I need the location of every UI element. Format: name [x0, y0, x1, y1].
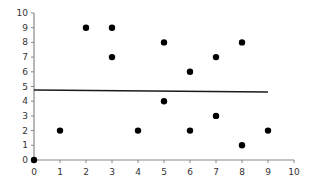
trend-line	[34, 90, 268, 92]
x-tick-label: 5	[161, 167, 167, 177]
x-tick-label: 10	[288, 167, 300, 177]
y-axis-ticks: 012345678910	[17, 8, 34, 165]
y-tick-label: 9	[22, 23, 28, 33]
x-tick-label: 1	[57, 167, 63, 177]
y-tick-label: 2	[22, 126, 28, 136]
y-tick-label: 7	[22, 52, 28, 62]
data-point	[213, 54, 219, 60]
data-point	[109, 25, 115, 31]
x-axis-ticks: 012345678910	[31, 160, 300, 177]
y-tick-label: 8	[22, 37, 28, 47]
data-point	[135, 127, 141, 133]
data-point	[239, 142, 245, 148]
y-tick-label: 1	[22, 140, 28, 150]
y-tick-label: 4	[22, 96, 28, 106]
scatter-chart: 012345678910 012345678910	[0, 0, 313, 190]
y-tick-label: 6	[22, 67, 28, 77]
data-point	[187, 127, 193, 133]
data-point	[213, 113, 219, 119]
data-points-layer	[31, 25, 271, 164]
data-point	[57, 127, 63, 133]
y-tick-label: 10	[17, 8, 29, 18]
trend-line-layer	[34, 90, 268, 92]
y-tick-label: 3	[22, 111, 28, 121]
data-point	[83, 25, 89, 31]
data-point	[265, 127, 271, 133]
x-tick-label: 8	[239, 167, 245, 177]
x-tick-label: 7	[213, 167, 219, 177]
data-point	[161, 98, 167, 104]
data-point	[31, 157, 37, 163]
y-tick-label: 0	[22, 155, 28, 165]
x-tick-label: 9	[265, 167, 271, 177]
x-tick-label: 3	[109, 167, 115, 177]
x-tick-label: 2	[83, 167, 89, 177]
x-tick-label: 0	[31, 167, 37, 177]
data-point	[109, 54, 115, 60]
x-tick-label: 4	[135, 167, 141, 177]
data-point	[161, 39, 167, 45]
data-point	[239, 39, 245, 45]
x-tick-label: 6	[187, 167, 193, 177]
y-tick-label: 5	[22, 82, 28, 92]
data-point	[187, 69, 193, 75]
